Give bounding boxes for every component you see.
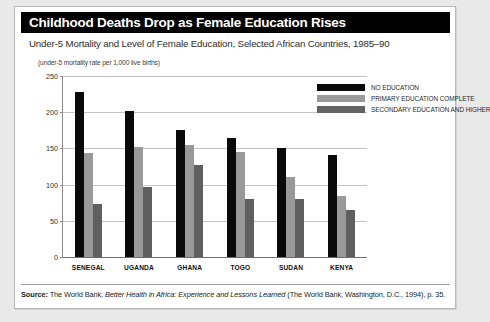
source-italic-title: Better Health in Africa: Experience and … [105,290,285,299]
y-axis-tick-label: 100 [46,180,58,189]
bar[interactable] [143,187,152,257]
bar[interactable] [337,196,346,257]
x-axis-category-label: GHANA [164,264,215,271]
x-axis-category-label: SUDAN [266,264,317,271]
bar[interactable] [125,111,134,257]
bar[interactable] [346,210,355,257]
y-axis-note: (under-5 mortality rate per 1,000 live b… [38,59,160,66]
bar[interactable] [245,199,254,257]
figure-card: Childhood Deaths Drop as Female Educatio… [14,6,456,309]
bar-group: GHANA [164,76,215,257]
bar[interactable] [277,148,286,257]
bar[interactable] [286,177,295,257]
bar-group-bars [164,76,215,257]
bar[interactable] [134,147,143,257]
source-label: Source: [21,290,48,299]
legend-swatch [317,95,365,102]
legend-item: PRIMARY EDUCATION COMPLETE [317,94,490,103]
bar[interactable] [75,92,84,257]
legend-label: NO EDUCATION [371,84,419,91]
bar-group-bars [266,76,317,257]
source-note: Source: The World Bank, Better Health in… [21,284,450,299]
y-axis-tick-label: 0 [54,253,58,262]
bar-group-bars [114,76,165,257]
legend-item: NO EDUCATION [317,83,490,92]
bar[interactable] [185,145,194,257]
x-axis-category-label: KENYA [316,264,367,271]
bar[interactable] [194,165,203,257]
bar[interactable] [236,152,245,257]
bar-group: UGANDA [114,76,165,257]
y-axis-tick-label: 250 [46,72,58,81]
bar-group-bars [215,76,266,257]
bar-group: SENEGAL [63,76,114,257]
source-text-after: (The World Bank, Washington, D.C., 1994)… [285,290,445,299]
y-axis-tick-mark [60,257,63,258]
chart-area: (under-5 mortality rate per 1,000 live b… [15,59,457,277]
x-axis-category-label: UGANDA [114,264,165,271]
figure-subtitle: Under-5 Mortality and Level of Female Ed… [29,38,390,49]
bar[interactable] [84,153,93,257]
y-axis-tick-label: 200 [46,108,58,117]
bar[interactable] [295,199,304,257]
source-text-before: The World Bank, [48,290,105,299]
chart-legend: NO EDUCATIONPRIMARY EDUCATION COMPLETESE… [317,83,490,116]
bar[interactable] [176,130,185,257]
bar-group: SUDAN [266,76,317,257]
page-title: Childhood Deaths Drop as Female Educatio… [29,15,346,30]
x-axis-category-label: SENEGAL [63,264,114,271]
x-axis-line [63,257,367,258]
y-axis-tick-label: 50 [50,216,58,225]
bar[interactable] [227,138,236,257]
bar[interactable] [328,155,337,257]
title-bar: Childhood Deaths Drop as Female Educatio… [21,12,450,33]
legend-item: SECONDARY EDUCATION AND HIGHER [317,105,490,114]
legend-swatch [317,84,365,91]
legend-swatch [317,106,365,113]
legend-label: PRIMARY EDUCATION COMPLETE [371,95,474,102]
legend-label: SECONDARY EDUCATION AND HIGHER [371,106,490,113]
bar-group: TOGO [215,76,266,257]
y-axis-tick-label: 150 [46,144,58,153]
x-axis-category-label: TOGO [215,264,266,271]
bar-group-bars [63,76,114,257]
bar[interactable] [93,204,102,257]
